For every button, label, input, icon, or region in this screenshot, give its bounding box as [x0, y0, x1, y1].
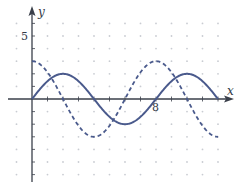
grid-dot: [217, 86, 219, 88]
grid-dot: [78, 73, 80, 75]
grid-dot: [78, 149, 80, 151]
grid-dot: [186, 48, 188, 50]
grid-dot: [155, 149, 157, 151]
grid-dot: [109, 60, 111, 62]
grid-dot: [140, 111, 142, 113]
grid-dot: [109, 48, 111, 50]
grid-dot: [109, 86, 111, 88]
grid-dot: [171, 123, 173, 125]
grid-dot: [140, 48, 142, 50]
grid-dot: [124, 48, 126, 50]
grid-dot: [155, 35, 157, 37]
grid-dot: [186, 123, 188, 125]
grid-dot: [140, 23, 142, 25]
grid-dot: [93, 86, 95, 88]
grid-dot: [78, 136, 80, 138]
grid-dot: [78, 86, 80, 88]
grid-dot: [93, 23, 95, 25]
grid-dot: [78, 23, 80, 25]
grid-dot: [16, 35, 18, 37]
grid-dot: [62, 149, 64, 151]
axes: [8, 6, 234, 182]
grid-dot: [140, 161, 142, 163]
grid-dot: [109, 23, 111, 25]
grid-dot: [155, 161, 157, 163]
x-tick-label-8: 8: [152, 101, 159, 114]
grid-dot: [16, 123, 18, 125]
grid-dot: [155, 136, 157, 138]
grid-dot: [93, 111, 95, 113]
grid-dot: [217, 123, 219, 125]
grid-dot: [62, 23, 64, 25]
grid-dot: [109, 161, 111, 163]
grid-dot: [217, 73, 219, 75]
grid-dot: [16, 23, 18, 25]
grid-dot: [171, 111, 173, 113]
chart-area: y x 5 8: [0, 0, 238, 186]
grid-dot: [47, 48, 49, 50]
grid-dot: [155, 86, 157, 88]
grid-dot: [16, 161, 18, 163]
grid-dot: [217, 60, 219, 62]
grid-dot: [47, 111, 49, 113]
grid-dot: [155, 48, 157, 50]
grid-dot: [16, 111, 18, 113]
grid-dot: [186, 136, 188, 138]
grid-dot: [93, 73, 95, 75]
grid-dot: [186, 174, 188, 176]
grid-dot: [124, 111, 126, 113]
grid-dot: [78, 161, 80, 163]
grid-dot: [109, 136, 111, 138]
grid-dot: [202, 23, 204, 25]
grid-dot: [93, 35, 95, 37]
grid-dot: [140, 149, 142, 151]
grid-dot: [171, 23, 173, 25]
grid-dot: [62, 161, 64, 163]
grid-dot: [124, 86, 126, 88]
grid-dot: [109, 73, 111, 75]
grid-dot: [171, 174, 173, 176]
grid-dot: [140, 123, 142, 125]
grid-dot: [171, 35, 173, 37]
grid-dot: [93, 174, 95, 176]
grid-dot: [217, 149, 219, 151]
grid-dot: [62, 48, 64, 50]
grid-dot: [202, 136, 204, 138]
grid-dot: [109, 35, 111, 37]
grid-dot: [186, 60, 188, 62]
grid-dot: [140, 136, 142, 138]
grid-dot: [124, 136, 126, 138]
grid-dot: [47, 136, 49, 138]
grid-dot: [186, 149, 188, 151]
grid-dot: [186, 161, 188, 163]
grid-dot: [202, 111, 204, 113]
grid-dot: [16, 174, 18, 176]
grid-dot: [78, 174, 80, 176]
grid-dot: [109, 174, 111, 176]
grid-dot: [62, 60, 64, 62]
grid-dot: [124, 73, 126, 75]
grid-dot: [186, 86, 188, 88]
grid-dot: [124, 149, 126, 151]
grid-dot: [62, 86, 64, 88]
grid-dot: [93, 149, 95, 151]
grid-dot: [171, 86, 173, 88]
grid-dot: [16, 48, 18, 50]
grid-dot: [202, 60, 204, 62]
grid-dot: [47, 149, 49, 151]
grid-dot: [47, 123, 49, 125]
grid-dot: [140, 60, 142, 62]
grid-dot: [202, 73, 204, 75]
grid-dot: [62, 136, 64, 138]
grid-dot: [109, 149, 111, 151]
grid-dot: [93, 48, 95, 50]
grid-dot: [186, 111, 188, 113]
grid-dot: [217, 174, 219, 176]
grid-dot: [202, 174, 204, 176]
grid-dot: [202, 35, 204, 37]
grid-dot: [155, 73, 157, 75]
grid-dot: [217, 111, 219, 113]
grid-dot: [93, 60, 95, 62]
grid-dot: [78, 48, 80, 50]
grid-dot: [47, 174, 49, 176]
